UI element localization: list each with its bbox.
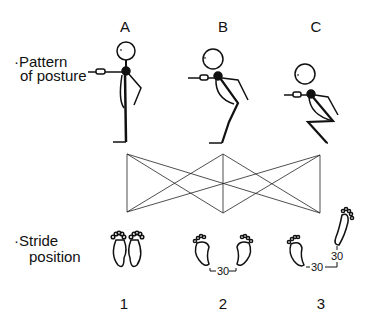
stride-distance-3-horizontal: 30 — [311, 261, 323, 273]
stick-figure-a — [88, 42, 141, 142]
stick-figure-c — [284, 64, 338, 143]
diagram-graphics: 30 30 30 — [0, 0, 370, 325]
stride-distance-3-vertical: 30 — [331, 250, 343, 262]
footprints-position-3 — [287, 207, 353, 267]
connection-network — [127, 154, 320, 213]
stick-figure-b — [188, 49, 248, 143]
stride-distance-2: 30 — [217, 265, 229, 277]
footprints-position-1 — [111, 231, 144, 266]
